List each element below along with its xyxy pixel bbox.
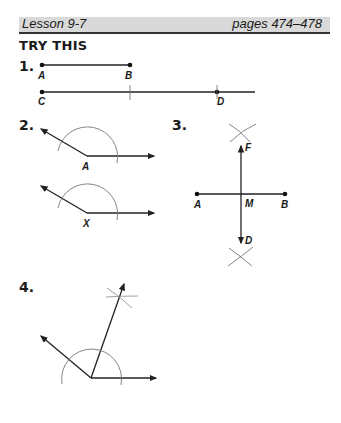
point-label-a-3: A <box>194 199 201 210</box>
point-label-a: A <box>38 70 45 81</box>
vertex-label-a: A <box>82 161 89 172</box>
geometry-figures <box>0 0 341 423</box>
problem-4-figure <box>41 284 156 385</box>
point-label-b-3: B <box>281 199 288 210</box>
midpoint-label-m: M <box>245 198 253 209</box>
point-label-f: F <box>245 142 251 153</box>
problem-2-angle-x <box>41 184 154 220</box>
point-label-d-3: D <box>245 235 252 246</box>
point-label-b: B <box>125 70 132 81</box>
problem-3-figure <box>195 124 288 266</box>
point-label-d: D <box>217 96 224 107</box>
problem-2-angle-a <box>41 127 154 163</box>
problem-1-figure <box>40 63 255 100</box>
vertex-label-x: X <box>83 218 90 229</box>
point-label-c: C <box>38 96 45 107</box>
